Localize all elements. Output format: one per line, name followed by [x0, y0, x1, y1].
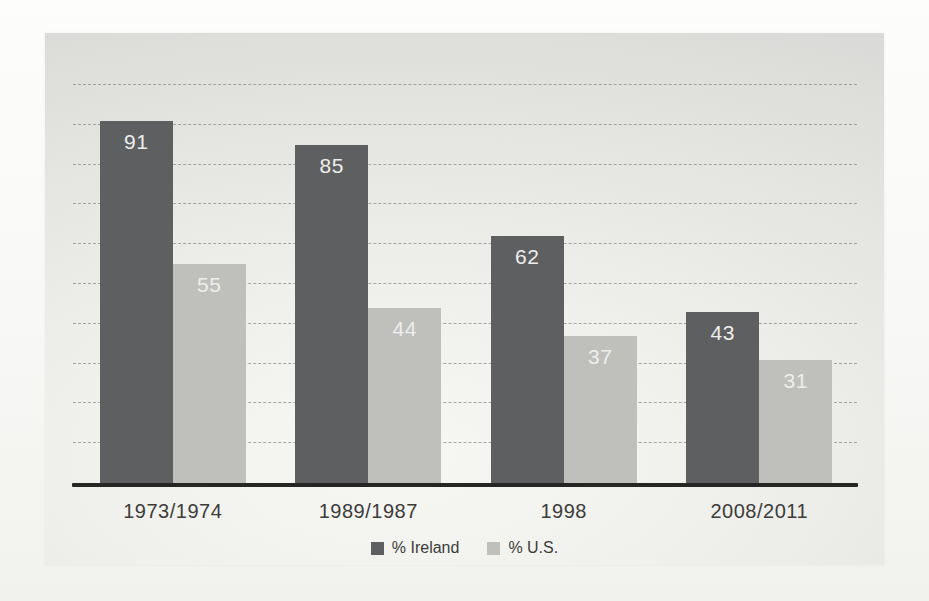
value-label: 85: [295, 154, 368, 178]
plot-area: 9155854462374331: [75, 85, 857, 483]
x-axis-label-2008-2011: 2008/2011: [662, 500, 858, 523]
value-label: 62: [491, 245, 564, 269]
bar-group-1973-1974: 9155: [75, 85, 271, 483]
bar-ireland-1973-1974: 91: [100, 121, 173, 483]
legend-swatch-u-s: [487, 542, 500, 555]
legend-swatch-ireland: [371, 542, 384, 555]
bars-layer: 9155854462374331: [75, 85, 857, 483]
legend: % Ireland% U.S.: [45, 539, 884, 557]
bar-ireland-2008-2011: 43: [686, 312, 759, 483]
x-axis-line: [72, 483, 858, 487]
value-label: 43: [686, 321, 759, 345]
bar-u-s-2008-2011: 31: [759, 360, 832, 483]
x-axis-label-1973-1974: 1973/1974: [75, 500, 271, 523]
value-label: 44: [368, 317, 441, 341]
legend-item-ireland: % Ireland: [371, 539, 460, 557]
value-label: 91: [100, 130, 173, 154]
bar-ireland-1998: 62: [491, 236, 564, 483]
x-axis-labels: 1973/19741989/198719982008/2011: [75, 500, 857, 523]
legend-item-u-s: % U.S.: [487, 539, 558, 557]
legend-label-u-s: % U.S.: [508, 539, 558, 557]
value-label: 37: [564, 345, 637, 369]
bar-u-s-1998: 37: [564, 336, 637, 483]
bar-group-1998: 6237: [466, 85, 662, 483]
legend-label-ireland: % Ireland: [392, 539, 460, 557]
value-label: 31: [759, 369, 832, 393]
value-label: 55: [173, 273, 246, 297]
bar-u-s-1973-1974: 55: [173, 264, 246, 483]
bar-group-1989-1987: 8544: [271, 85, 467, 483]
bar-u-s-1989-1987: 44: [368, 308, 441, 483]
bar-ireland-1989-1987: 85: [295, 145, 368, 483]
x-axis-label-1989-1987: 1989/1987: [271, 500, 467, 523]
x-axis-label-1998: 1998: [466, 500, 662, 523]
chart-panel: 9155854462374331 1973/19741989/198719982…: [45, 33, 884, 565]
bar-group-2008-2011: 4331: [662, 85, 858, 483]
